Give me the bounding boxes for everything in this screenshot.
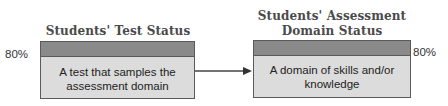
right-title-line1: Students' Assessment: [253, 9, 411, 24]
test-status-text: A test that samples the assessment domai…: [41, 65, 194, 93]
test-status-text-line2: assessment domain: [41, 79, 194, 93]
domain-status-band: [254, 41, 410, 56]
test-status-box: A test that samples the assessment domai…: [40, 41, 195, 99]
domain-status-text-line2: knowledge: [254, 77, 410, 91]
test-status-band: [41, 42, 194, 57]
right-title: Students' Assessment Domain Status: [253, 9, 411, 39]
test-status-text-line1: A test that samples the: [41, 65, 194, 79]
left-percent: 80%: [5, 48, 28, 60]
domain-status-text: A domain of skills and/or knowledge: [254, 63, 410, 91]
arrow-icon: [195, 64, 255, 78]
domain-status-text-line1: A domain of skills and/or: [254, 63, 410, 77]
domain-status-box: A domain of skills and/or knowledge: [253, 40, 411, 98]
right-percent: 80%: [413, 46, 436, 58]
left-title: Students' Test Status: [40, 24, 196, 39]
right-title-line2: Domain Status: [253, 24, 411, 39]
